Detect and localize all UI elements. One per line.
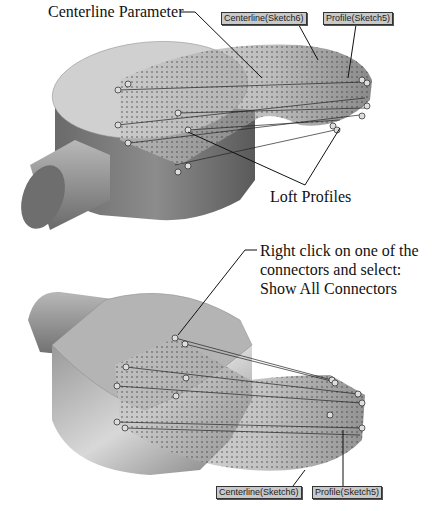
callout-right-click-line1: Right click on one of the <box>260 241 419 260</box>
tag-centerline-sketch6-top[interactable]: Centerline(Sketch6) <box>221 12 307 25</box>
callout-right-click-line2: connectors and select: <box>260 260 401 279</box>
callout-centerline-parameter: Centerline Parameter <box>48 2 184 21</box>
callout-right-click-line3: Show All Connectors <box>260 279 397 298</box>
tag-profile-sketch5-bottom[interactable]: Profile(Sketch5) <box>312 486 382 499</box>
tag-centerline-sketch6-bottom[interactable]: Centerline(Sketch6) <box>216 486 302 499</box>
callout-loft-profiles: Loft Profiles <box>270 187 351 206</box>
tag-profile-sketch5-top[interactable]: Profile(Sketch5) <box>323 12 393 25</box>
